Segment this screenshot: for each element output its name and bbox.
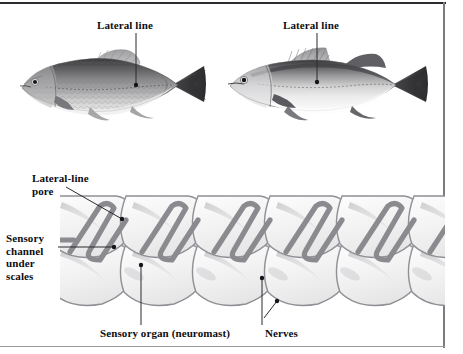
gill-cover [230,65,273,108]
fish-illustration-perch [228,44,434,122]
label-lateral-line-fish-1: Lateral line [97,19,153,32]
lateral-line-figure: Lateral line Lateral line Lateral-line p… [0,0,463,354]
label-lateral-line-fish-2: Lateral line [283,19,339,32]
gill-cover [22,65,57,108]
label-sensory-organ-neuromast: Sensory organ (neuromast) [100,327,230,340]
label-sensory-channel-under-scales: Sensory channel under scales [6,232,76,282]
anal-fin [130,106,154,118]
plate-border-bottom [0,346,445,347]
label-nerves: Nerves [265,327,298,340]
label-lateral-line-pore: Lateral-line pore [32,172,110,197]
plate-border-top [0,2,446,4]
fish-illustration-minnow [18,44,214,122]
scale-cutaway-diagram [60,178,445,318]
